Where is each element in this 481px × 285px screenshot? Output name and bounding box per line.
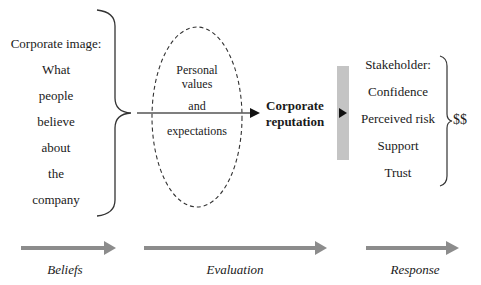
beliefs-line: people (0, 88, 112, 114)
ellipse-text-expectations: expectations (158, 124, 236, 139)
beliefs-line: the (0, 166, 112, 192)
reputation-label-line2: reputation (262, 114, 328, 129)
evaluation-ellipse (152, 27, 242, 207)
stage-label-response: Response (370, 262, 460, 277)
beliefs-line: company (0, 192, 112, 218)
right-brace (440, 56, 452, 186)
stakeholder-line: Perceived risk (355, 111, 441, 138)
beliefs-line: What (0, 62, 112, 88)
response-stage-arrow (366, 241, 459, 255)
beliefs-stage-arrow (21, 241, 116, 255)
corporate-image-text: Corporate image: What people believe abo… (0, 36, 112, 218)
stage-label-beliefs: Beliefs (20, 262, 110, 277)
beliefs-line: Corporate image: (0, 36, 112, 62)
stakeholder-line: Support (355, 138, 441, 165)
ellipse-text-personal: Personal (162, 63, 232, 78)
ellipse-text-and: and (162, 99, 232, 114)
stakeholder-line: Trust (355, 165, 441, 192)
evaluation-stage-arrow (144, 241, 327, 255)
stakeholder-line: Confidence (355, 84, 441, 111)
stakeholder-text: Stakeholder: Confidence Perceived risk S… (355, 57, 441, 192)
ellipse-text-values: values (162, 77, 232, 92)
outcome-dollars: $$ (453, 112, 467, 127)
reputation-label-line1: Corporate (262, 98, 328, 113)
beliefs-line: believe (0, 114, 112, 140)
beliefs-line: about (0, 140, 112, 166)
reputation-arrowhead (250, 108, 260, 118)
stakeholder-line: Stakeholder: (355, 57, 441, 84)
stage-label-evaluation: Evaluation (185, 262, 285, 277)
